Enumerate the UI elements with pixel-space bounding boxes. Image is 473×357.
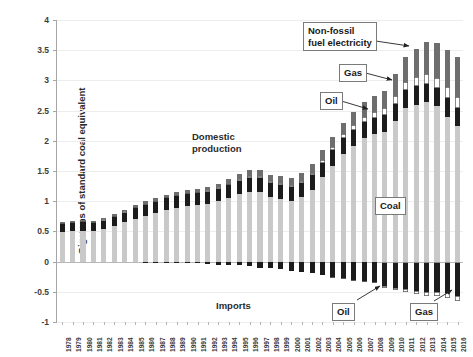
annotation-imports: Imports: [216, 300, 251, 312]
annotation-coal: Coal: [375, 197, 406, 215]
annotation-oil-lower: Oil: [332, 303, 355, 321]
annotation-oil-upper: Oil: [320, 92, 343, 110]
annotation-gas-lower: Gas: [410, 303, 438, 321]
annotation-gas-upper: Gas: [339, 64, 367, 82]
annotation-domestic-production: Domestic production: [192, 131, 242, 155]
annotation-non-fossil-fuel-electricity: Non-fossil fuel electricity: [303, 22, 377, 51]
chart-root: Gigatons of standard coal equivalent -1-…: [0, 0, 473, 357]
